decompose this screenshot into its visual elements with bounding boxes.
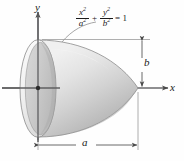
ellipsoid-figure: y x b a x2 a2 + y2 b2 = 1 (0, 0, 184, 161)
equation-x-numerator-exponent: 2 (83, 6, 86, 12)
dimension-a-label: a (82, 137, 88, 148)
equation-x-fraction: x2 a2 (76, 8, 89, 28)
origin-marker (36, 86, 40, 90)
equation-operator: + (91, 13, 98, 23)
axis-x-label: x (170, 82, 175, 93)
equation-y-numerator: y2 (101, 8, 112, 17)
equation-y-denominator: b2 (101, 19, 113, 28)
equation-x-numerator: x2 (77, 8, 88, 17)
equation-x-denominator-exponent: 2 (83, 17, 86, 23)
equation-y-fraction: y2 b2 (100, 8, 113, 28)
equation-x-denominator: a2 (77, 19, 89, 28)
ellipse-equation: x2 a2 + y2 b2 = 1 (76, 8, 127, 28)
equation-y-denominator-exponent: 2 (107, 17, 110, 23)
equation-equals: = 1 (115, 13, 127, 23)
equation-y-numerator-exponent: 2 (107, 6, 110, 12)
axis-y-label: y (35, 2, 40, 13)
dimension-b-label: b (144, 57, 150, 68)
